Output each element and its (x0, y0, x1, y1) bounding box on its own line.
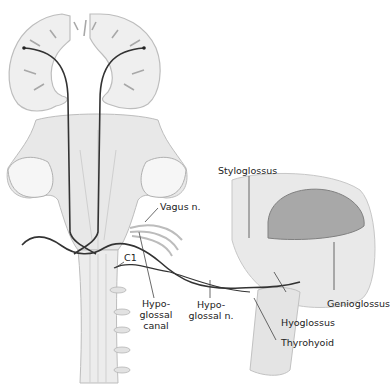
label-hypoglossal-nerve-line2: glossal n. (186, 310, 236, 321)
label-hypoglossal-nerve: Hypo- glossal n. (186, 299, 236, 321)
brainstem (7, 114, 187, 383)
brain-left-hemisphere (9, 14, 70, 111)
label-c1: C1 (124, 252, 137, 263)
tract-origin-right (142, 46, 146, 50)
tract-origin-left (22, 46, 26, 50)
label-styloglossus: Styloglossus (218, 165, 277, 176)
label-hypoglossal-canal-line1: Hypo- (136, 298, 176, 309)
vagus-nerve-fibers (130, 225, 182, 256)
leader-vagus (145, 208, 158, 222)
label-thyrohyoid: Thyrohyoid (281, 337, 334, 348)
label-hypoglossal-canal-line2: glossal (136, 309, 176, 320)
leader-hypoglossal-canal (139, 232, 154, 298)
label-hypoglossal-canal-line3: canal (136, 320, 176, 331)
label-hyoglossus: Hyoglossus (281, 317, 335, 328)
brain-coronal-section (9, 14, 160, 111)
label-hypoglossal-nerve-line1: Hypo- (186, 299, 236, 310)
label-vagus-nerve: Vagus n. (160, 201, 201, 212)
hyoid-larynx (250, 287, 300, 375)
label-hypoglossal-canal: Hypo- glossal canal (136, 298, 176, 331)
label-genioglossus: Genioglossus (327, 298, 390, 309)
